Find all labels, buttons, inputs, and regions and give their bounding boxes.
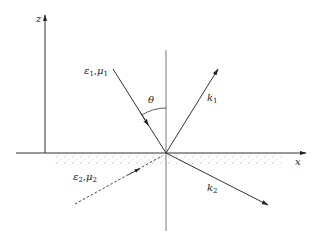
dashed-ray-arrow: [128, 169, 140, 176]
k2-label: k2: [207, 182, 218, 195]
incident-ray: [113, 69, 166, 153]
reflection-refraction-diagram: z x θ k1 k2 ε1,μ1 ε2,μ2: [0, 0, 316, 243]
angle-theta-arc: [142, 108, 166, 115]
z-axis-label: z: [35, 13, 42, 24]
lower-medium-label: ε2,μ2: [73, 171, 97, 184]
lower-medium-stipple: [55, 154, 281, 165]
angle-theta-label: θ: [148, 94, 154, 105]
upper-medium-label: ε1,μ1: [84, 65, 108, 78]
reflected-ray-k1: [166, 69, 218, 153]
k1-label: k1: [207, 92, 218, 105]
x-axis-label: x: [295, 156, 301, 167]
